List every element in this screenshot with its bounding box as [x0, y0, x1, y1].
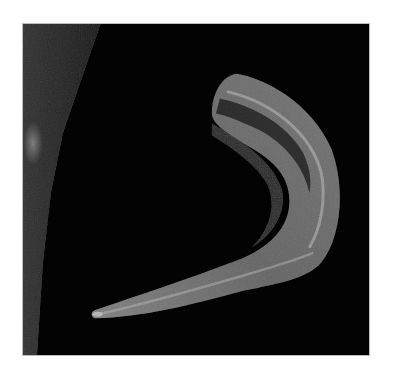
side-structure	[23, 24, 101, 355]
scan-image	[23, 24, 369, 355]
horn-structure	[92, 74, 340, 319]
image-frame	[22, 23, 370, 356]
